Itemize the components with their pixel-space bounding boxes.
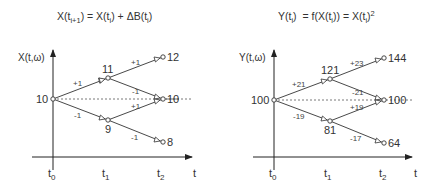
left-tick-t0: t0 [48,167,56,182]
left-panel: X(ti+1) = X(ti) + ΔB(ti) X(t,ω) t t0 t1 … [18,10,196,182]
right-tick-t0: t0 [269,167,277,182]
left-edge-up-down: -1 [132,87,140,96]
left-edge-root-down: -1 [74,111,82,120]
left-x-axis-label: t [193,167,196,179]
right-edge-up-up: +23 [350,59,364,68]
right-node-root: 100 [251,94,269,106]
right-node-t1-up: 121 [321,64,339,76]
right-edge-up-down: -21 [352,88,364,97]
left-equation: X(ti+1) = X(ti) + ΔB(ti) [57,10,152,25]
left-edge-up-up: +1 [131,58,141,67]
left-edge-root-up: +1 [73,79,83,88]
left-tick-t2: t2 [157,167,165,182]
right-edge-root-up: +21 [292,80,306,89]
left-edge-down-up: +1 [131,102,141,111]
right-node-t2-mid: 100 [388,94,406,106]
left-node-root: 10 [36,93,48,105]
binomial-tree-diagram: X(ti+1) = X(ti) + ΔB(ti) X(t,ω) t t0 t1 … [0,0,437,187]
right-equation: Y(ti) = f(X(ti)) = X(ti)2 [278,9,375,25]
left-node-t1-down: 9 [105,123,111,135]
left-tick-t1: t1 [102,167,110,182]
left-node-t1-up: 11 [102,63,113,75]
right-node-t2-down: 64 [388,137,400,149]
right-edge-down-up: +19 [350,103,364,112]
left-edge-down-down: -1 [131,133,139,142]
right-tick-t1: t1 [324,167,332,182]
right-panel: Y(ti) = f(X(ti)) = X(ti)2 Y(t,ω) t t0 t1… [239,9,417,182]
left-node-t2-up: 12 [167,51,179,63]
left-node-t2-down: 8 [167,136,173,148]
right-x-axis-label: t [414,167,417,179]
right-node-t1-down: 81 [324,124,336,136]
right-tick-t2: t2 [379,167,387,182]
right-edge-root-down: -19 [293,112,305,121]
right-edge-down-down: -17 [350,134,362,143]
right-node-t2-up: 144 [388,52,406,64]
right-y-axis-label: Y(t,ω) [239,52,266,63]
left-y-axis-label: X(t,ω) [18,52,45,63]
